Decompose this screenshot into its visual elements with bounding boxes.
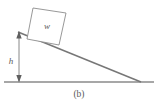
block-weight-label: w xyxy=(44,21,50,31)
height-label: h xyxy=(9,56,14,66)
physics-figure-inclined-plane: w h (b) xyxy=(0,0,158,105)
height-arrow-up-icon xyxy=(16,31,21,39)
figure-caption: (b) xyxy=(0,88,158,100)
